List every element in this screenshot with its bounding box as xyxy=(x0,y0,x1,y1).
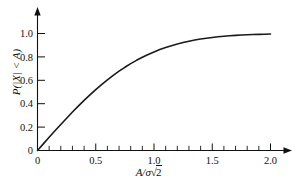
chart-figure: 0 0.2 0.4 0.6 0.8 1.0 0 0.5 1.0 1.5 2.0 … xyxy=(0,0,298,189)
y-tick-label-0: 0 xyxy=(28,145,33,156)
erf-line-chart: 0 0.2 0.4 0.6 0.8 1.0 0 0.5 1.0 1.5 2.0 xyxy=(0,0,298,189)
x-tick-label-2.0: 2.0 xyxy=(264,155,277,166)
x-axis-title-main: A/σ xyxy=(136,166,151,178)
x-tick-label-1.0: 1.0 xyxy=(147,155,160,166)
x-axis-title-radicand: 2 xyxy=(156,165,163,178)
x-tick-label-1.5: 1.5 xyxy=(206,155,219,166)
y-tick-label-0.2: 0.2 xyxy=(20,122,33,133)
x-tick-label-0: 0 xyxy=(35,155,40,166)
x-tick-label-0.5: 0.5 xyxy=(89,155,102,166)
x-axis-title: A/σ√2 xyxy=(0,166,298,178)
y-axis-title: P(|X| < A) xyxy=(10,25,22,119)
